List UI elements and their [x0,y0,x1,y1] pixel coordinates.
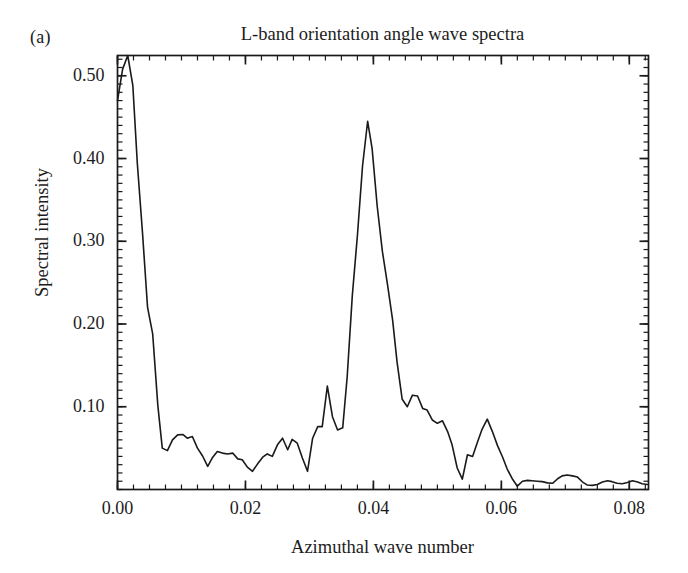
axis-ticks [118,56,649,490]
axis-frame [118,56,649,490]
figure-container: (a) L-band orientation angle wave spectr… [0,0,688,573]
axes-frame [118,56,649,490]
data-series-group [118,56,648,487]
plot-area [0,0,688,573]
series-line-0 [118,56,648,487]
